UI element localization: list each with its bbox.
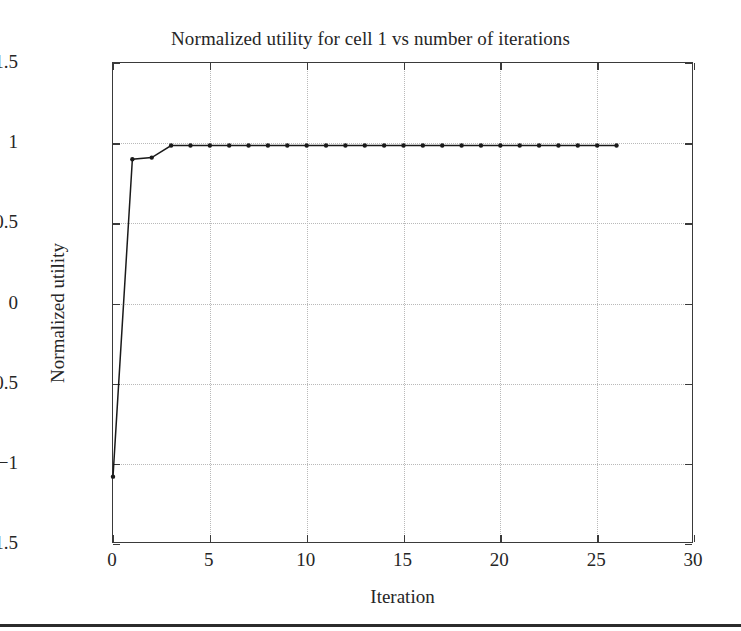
x-tick-mark — [597, 63, 598, 70]
x-tick-mark — [113, 535, 114, 542]
figure: Normalized utility for cell 1 vs number … — [0, 0, 741, 631]
y-tick-mark — [685, 544, 692, 545]
y-axis-label: Normalized utility — [47, 193, 69, 433]
x-tick-mark — [404, 63, 405, 70]
data-point-marker — [111, 474, 115, 478]
y-tick-mark — [685, 63, 692, 64]
x-tick-mark — [500, 535, 501, 542]
x-tick-mark — [307, 63, 308, 70]
gridline-horizontal — [113, 143, 692, 144]
y-tick-mark — [685, 464, 692, 465]
y-tick-mark — [113, 464, 120, 465]
plot-area — [112, 62, 693, 543]
y-tick-mark — [113, 384, 120, 385]
x-axis-label: Iteration — [112, 586, 693, 608]
y-tick-label: 0.5 — [0, 211, 18, 233]
x-tick-mark — [210, 63, 211, 70]
chart-title: Normalized utility for cell 1 vs number … — [0, 28, 741, 50]
gridline-vertical — [404, 63, 405, 542]
gridline-horizontal — [113, 384, 692, 385]
x-tick-label: 5 — [204, 549, 214, 571]
x-tick-mark — [404, 535, 405, 542]
x-tick-label: 25 — [587, 549, 606, 571]
x-tick-label: 0 — [107, 549, 117, 571]
x-tick-mark — [307, 535, 308, 542]
x-tick-mark — [694, 63, 695, 70]
x-tick-mark — [210, 535, 211, 542]
x-tick-label: 10 — [296, 549, 315, 571]
data-point-marker — [150, 155, 154, 159]
y-tick-mark — [113, 63, 120, 64]
x-tick-label: 15 — [393, 549, 412, 571]
gridline-horizontal — [113, 304, 692, 305]
series-markers — [111, 143, 619, 478]
gridline-vertical — [307, 63, 308, 542]
y-tick-label: 1 — [9, 131, 19, 153]
y-tick-label: 0 — [9, 292, 19, 314]
y-tick-mark — [685, 384, 692, 385]
series-line — [113, 146, 617, 477]
gridline-vertical — [500, 63, 501, 542]
gridline-horizontal — [113, 464, 692, 465]
y-tick-label: −1 — [0, 452, 18, 474]
y-tick-mark — [685, 223, 692, 224]
x-tick-mark — [694, 535, 695, 542]
gridline-vertical — [597, 63, 598, 542]
y-tick-mark — [685, 304, 692, 305]
page-bottom-rule — [0, 624, 741, 627]
gridline-horizontal — [113, 223, 692, 224]
y-tick-mark — [113, 143, 120, 144]
y-tick-label: −1.5 — [0, 532, 18, 554]
gridline-vertical — [210, 63, 211, 542]
x-tick-mark — [597, 535, 598, 542]
y-tick-label: 1.5 — [0, 51, 18, 73]
x-tick-mark — [500, 63, 501, 70]
y-tick-mark — [113, 544, 120, 545]
x-tick-label: 30 — [684, 549, 703, 571]
y-tick-mark — [113, 304, 120, 305]
y-tick-label: −0.5 — [0, 372, 18, 394]
y-tick-mark — [685, 143, 692, 144]
data-point-marker — [130, 157, 134, 161]
x-tick-label: 20 — [490, 549, 509, 571]
y-tick-mark — [113, 223, 120, 224]
